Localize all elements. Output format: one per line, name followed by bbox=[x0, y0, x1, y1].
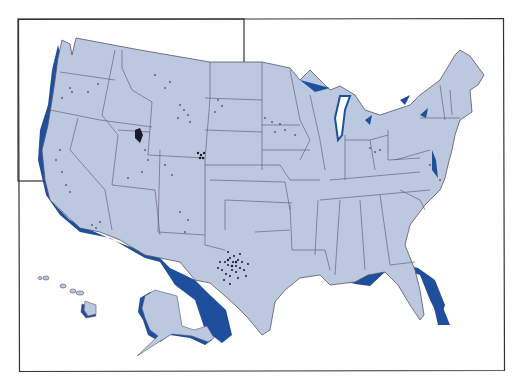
hawaii bbox=[38, 276, 96, 318]
us-map bbox=[0, 0, 519, 384]
